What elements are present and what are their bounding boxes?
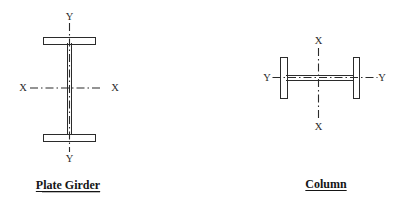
column-axis-label-right: Y (375, 72, 389, 84)
girder-top-flange (43, 37, 96, 45)
girder-bottom-flange (43, 134, 96, 142)
girder-axis-label-left: X (16, 82, 30, 94)
plate-girder-caption: Plate Girder (23, 178, 113, 193)
girder-axis-label-right: X (108, 82, 122, 94)
column-right-flange (353, 57, 361, 99)
column-left-flange (280, 57, 288, 99)
column-caption: Column (291, 177, 361, 192)
drawing-canvas: Y Y X X Plate Girder X X Y Y Column (0, 0, 398, 202)
column-web (286, 75, 354, 81)
column-axis-label-top: X (312, 35, 326, 47)
girder-web (67, 43, 72, 135)
girder-axis-label-top: Y (63, 11, 77, 23)
girder-axis-label-bottom: Y (63, 153, 77, 165)
centerlines-layer (0, 0, 398, 202)
column-axis-label-left: Y (260, 72, 274, 84)
scan-artifact-line (42, 192, 100, 193)
column-axis-label-bottom: X (312, 121, 326, 133)
